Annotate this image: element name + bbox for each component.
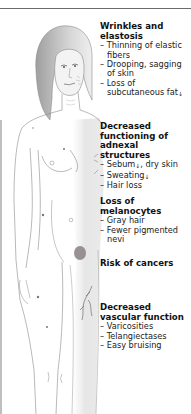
label-item: – Fewer pigmented nevi: [100, 226, 191, 245]
label-heading: Wrinkles and elastosis: [100, 22, 191, 41]
label-wrinkles: Wrinkles and elastosis – Thinning of ela…: [100, 22, 191, 99]
down-arrow-icon: ↓: [178, 90, 183, 97]
label-cancers: Risk of cancers: [100, 259, 191, 269]
label-heading: Decreased functioning of adnexal structu…: [100, 122, 191, 160]
lesion: [74, 246, 86, 260]
down-arrow-icon: ↓: [145, 173, 150, 180]
label-item: – Drooping, sagging of skin: [100, 60, 191, 79]
label-item: – Easy bruising: [100, 341, 191, 350]
label-adnexal: Decreased functioning of adnexal structu…: [100, 122, 191, 191]
label-vascular: Decreased vascular function – Varicositi…: [100, 303, 191, 350]
label-heading: Loss of melanocytes: [100, 197, 191, 216]
label-item: – Thinning of elastic fibers: [100, 41, 191, 60]
label-heading: Decreased vascular function: [100, 303, 191, 322]
label-item: – Loss of subcutaneous fat↓: [100, 79, 191, 99]
label-item: – Hair loss: [100, 181, 191, 190]
label-melanocytes: Loss of melanocytes – Gray hair – Fewer …: [100, 197, 191, 244]
label-heading: Risk of cancers: [100, 259, 191, 269]
